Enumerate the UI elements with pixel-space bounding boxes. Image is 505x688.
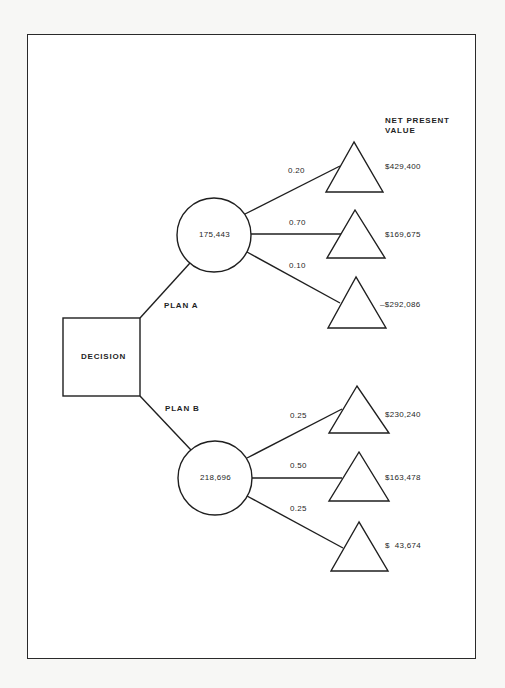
plan-a-npv-2: $169,675 (385, 230, 421, 239)
plan-a-prob-3: 0.10 (289, 261, 306, 270)
plan-a-expected-value: 175,443 (199, 230, 230, 239)
npv-header-line1: NET PRESENT (385, 116, 450, 125)
terminal-node-b1-triangle-icon (329, 386, 389, 433)
plan-b-npv-2: $163,478 (385, 473, 421, 482)
decision-tree (0, 0, 505, 688)
plan-b-npv-3: $ 43,674 (385, 541, 421, 550)
plan-a-label: PLAN A (164, 301, 198, 310)
terminal-node-a3-triangle-icon (328, 277, 386, 328)
plan-b-expected-value: 218,696 (200, 473, 231, 482)
plan-a-outcome-3-branch (247, 252, 340, 303)
plan-b-prob-3: 0.25 (290, 504, 307, 513)
plan-b-prob-1: 0.25 (290, 411, 307, 420)
plan-a-npv-1: $429,400 (385, 162, 421, 171)
plan-b-prob-2: 0.50 (290, 461, 307, 470)
plan-a-npv-3: –$292,086 (380, 300, 421, 309)
terminal-node-a1-triangle-icon (326, 142, 383, 192)
plan-a-prob-1: 0.20 (288, 166, 305, 175)
plan-b-npv-1: $230,240 (385, 410, 421, 419)
plan-b-label: PLAN B (165, 404, 200, 413)
decision-label: DECISION (81, 352, 126, 361)
plan-a-prob-2: 0.70 (289, 218, 306, 227)
terminal-node-b2-triangle-icon (329, 452, 389, 501)
npv-header-line2: VALUE (385, 126, 416, 135)
